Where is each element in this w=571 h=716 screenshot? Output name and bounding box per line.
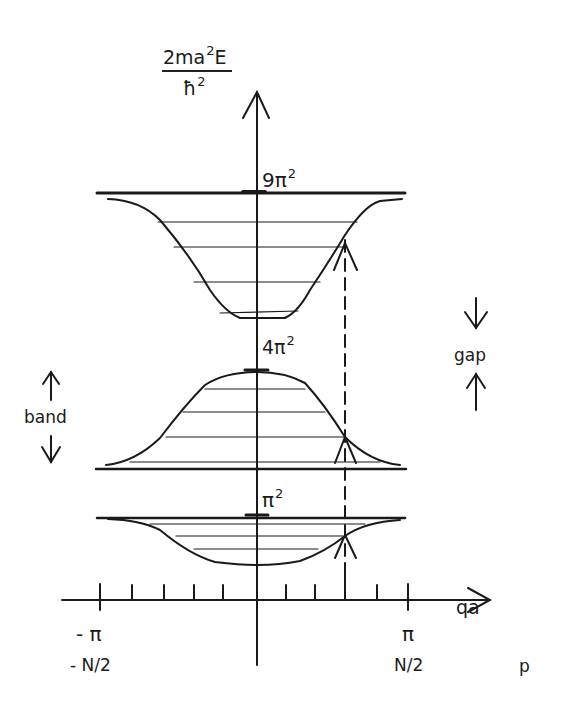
y-axis-label-fraction-bar [162, 70, 232, 72]
band-annotation: band [24, 409, 67, 426]
band-2 [96, 370, 406, 469]
tick-label-neg-pi: - π [76, 624, 102, 644]
x-axis-secondary-label: p [519, 658, 530, 675]
band-3 [97, 192, 405, 318]
gap-annotation: gap [454, 347, 486, 364]
y-axis-label-numerator: 2ma2E [163, 48, 227, 67]
tick-label-pi: π [402, 624, 414, 644]
qa-axis-ticks [100, 575, 408, 610]
y-axis-label-denominator: ħ2 [183, 79, 205, 98]
band-1 [97, 515, 405, 565]
level-label-4pi2: 4π2 [262, 338, 295, 357]
x-axis-label: qa [456, 598, 480, 617]
level-label-9pi2: 9π2 [262, 170, 296, 190]
tick-label-n-half: N/2 [394, 657, 423, 674]
level-label-pi2: π2 [262, 490, 283, 510]
tick-label-neg-n-half: - N/2 [70, 657, 111, 674]
